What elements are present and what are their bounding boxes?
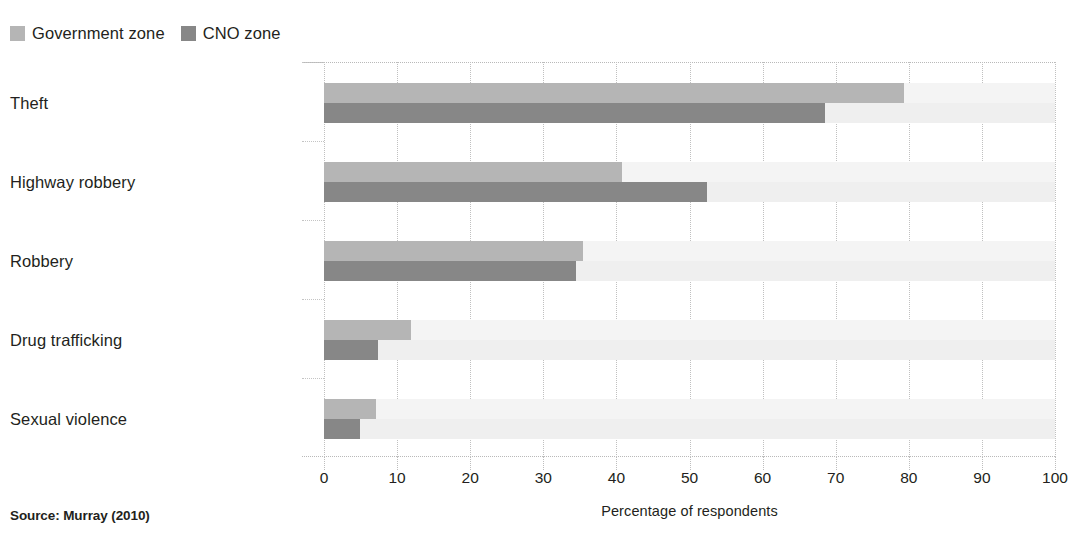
legend-swatch-government-zone [10,26,25,41]
legend-item-government-zone: Government zone [10,25,165,42]
y-tick-stub-3 [302,299,324,300]
x-tick-label-100: 100 [1042,469,1068,487]
y-axis-label-sexual-violence: Sexual violence [10,409,127,429]
bar-group-highway-robbery [324,162,1055,202]
bar-highway-robbery-government-zone [324,162,622,182]
bar-group-robbery [324,241,1055,281]
x-tick-label-20: 20 [462,469,479,487]
row-band-cno-3 [324,340,1055,360]
bar-theft-government-zone [324,83,904,103]
bar-group-drug-trafficking [324,320,1055,360]
row-band-cno-4 [324,419,1055,439]
legend-label-government-zone: Government zone [32,25,165,42]
row-band-gov-3 [324,320,1055,340]
chart-legend: Government zone CNO zone [10,22,281,44]
plot-area [324,62,1055,457]
bar-sexual-violence-government-zone [324,399,376,419]
bar-drug-trafficking-government-zone [324,320,411,340]
bar-group-sexual-violence [324,399,1055,439]
legend-item-cno-zone: CNO zone [181,25,281,42]
gridline-100 [1055,62,1056,457]
x-axis-title: Percentage of respondents [324,503,1055,519]
x-axis-ticks: 0102030405060708090100 [324,457,1055,481]
y-tick-stub-0 [302,62,324,63]
x-tick-label-60: 60 [754,469,771,487]
y-tick-stub-4 [302,378,324,379]
x-tick-label-10: 10 [388,469,405,487]
bar-drug-trafficking-cno-zone [324,340,378,360]
row-band-gov-4 [324,399,1055,419]
legend-swatch-cno-zone [181,26,196,41]
bar-robbery-cno-zone [324,261,576,281]
x-tick-label-40: 40 [608,469,625,487]
plot-top-border [302,62,1055,63]
source-note: Source: Murray (2010) [10,508,150,523]
bar-robbery-government-zone [324,241,583,261]
x-tick-label-0: 0 [320,469,329,487]
bar-sexual-violence-cno-zone [324,419,360,439]
x-tick-label-30: 30 [535,469,552,487]
x-tick-label-70: 70 [827,469,844,487]
y-tick-stub-1 [302,141,324,142]
y-axis-label-highway-robbery: Highway robbery [10,172,135,192]
bar-theft-cno-zone [324,103,825,123]
y-tick-stub-2 [302,220,324,221]
legend-label-cno-zone: CNO zone [203,25,281,42]
bar-group-theft [324,83,1055,123]
x-tick-label-80: 80 [900,469,917,487]
bar-highway-robbery-cno-zone [324,182,707,202]
y-axis-label-drug-trafficking: Drug trafficking [10,330,122,350]
y-axis-label-robbery: Robbery [10,251,73,271]
y-axis-label-theft: Theft [10,93,48,113]
x-tick-label-90: 90 [973,469,990,487]
x-tick-label-50: 50 [681,469,698,487]
